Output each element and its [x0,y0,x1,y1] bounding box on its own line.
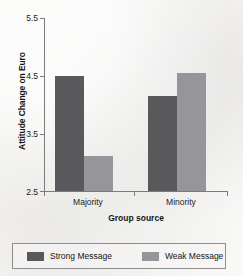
x-tick-mark-middle [134,191,135,196]
y-tick-label-5-5: 5.5 [12,13,38,23]
bar-chart: Attitude Change on Euro 5.5 4.5 3.5 2.5 … [0,0,243,276]
plot-area: Attitude Change on Euro 5.5 4.5 3.5 2.5 … [0,0,243,232]
y-tick-label-3-5: 3.5 [12,129,38,139]
bar-majority-weak-message [84,156,113,191]
bar-minority-weak-message [177,73,206,191]
bar-minority-strong-message [148,96,177,191]
x-category-label-majority: Majority [73,197,103,207]
x-tick-mark-left [44,191,45,196]
legend-swatch-weak-icon [142,252,159,261]
y-axis-tick-labels: 5.5 4.5 3.5 2.5 [12,0,38,232]
y-tick-label-2-5: 2.5 [12,187,38,197]
x-axis-line [44,191,228,192]
legend-item-strong-message: Strong Message [27,251,112,261]
x-tick-mark-right [227,191,228,196]
y-tick-label-4-5: 4.5 [12,71,38,81]
x-category-label-minority: Minority [166,197,196,207]
legend-item-weak-message: Weak Message [142,251,223,261]
legend-label-weak: Weak Message [165,251,223,261]
legend-label-strong: Strong Message [50,251,112,261]
bars-layer [44,18,228,191]
x-axis-title: Group source [44,213,228,223]
legend-swatch-strong-icon [27,252,44,261]
bar-majority-strong-message [55,76,84,191]
chart-legend: Strong Message Weak Message [12,243,226,269]
